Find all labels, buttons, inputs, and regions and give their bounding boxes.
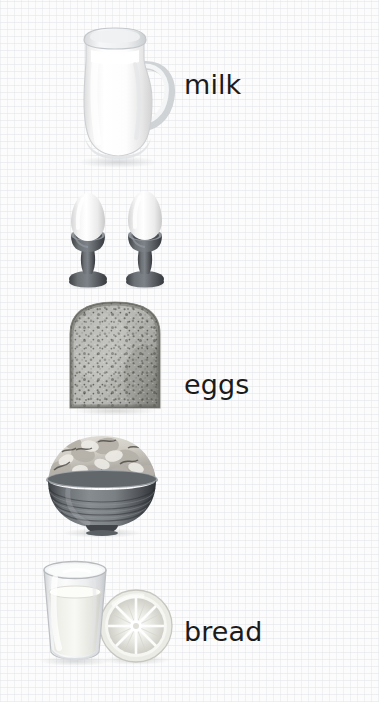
milk-jug-photo (60, 18, 176, 172)
vocabulary-row-cornflakes: corn flakes (0, 424, 379, 538)
eggs-in-egg-cups-photo (58, 178, 176, 294)
vocabulary-label-milk: milk (184, 71, 241, 98)
orange-juice-glass-photo (28, 548, 178, 674)
vocabulary-sheet: milk (0, 0, 379, 702)
corn-flakes-bowl-photo (28, 424, 176, 542)
vocabulary-row-bread: bread (0, 298, 379, 416)
vocabulary-row-milk: milk (0, 18, 379, 168)
vocabulary-row-eggs: eggs (0, 178, 379, 290)
bread-slice-photo (60, 298, 170, 420)
vocabulary-row-orangejuice: orange juice (0, 548, 379, 670)
